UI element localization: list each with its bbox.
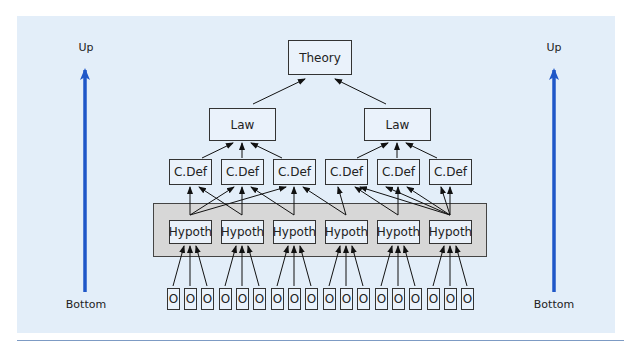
observation-node: O: [236, 288, 249, 310]
observation-node: O: [288, 288, 301, 310]
bottom-rule: [17, 340, 624, 341]
observation-node: O: [409, 288, 422, 310]
observation-node: O: [219, 288, 232, 310]
cdef-node-6: C.Def: [429, 159, 472, 185]
observation-node: O: [357, 288, 370, 310]
cdef-node-5: C.Def: [377, 159, 420, 185]
observation-node: O: [167, 288, 180, 310]
observation-node: O: [305, 288, 318, 310]
observation-node: O: [201, 288, 214, 310]
law-node-2: Law: [364, 108, 431, 141]
left-bottom-label: Bottom: [66, 298, 106, 311]
observation-node: O: [444, 288, 457, 310]
observation-node: O: [375, 288, 388, 310]
observation-node: O: [340, 288, 353, 310]
observation-node: O: [253, 288, 266, 310]
observation-node: O: [323, 288, 336, 310]
cdef-node-3: C.Def: [273, 159, 316, 185]
hypothesis-node-4: Hypoth: [325, 220, 368, 244]
observation-node: O: [427, 288, 440, 310]
theory-node: Theory: [288, 40, 352, 75]
cdef-node-4: C.Def: [325, 159, 368, 185]
right-bottom-label: Bottom: [534, 298, 574, 311]
hypothesis-node-3: Hypoth: [273, 220, 316, 244]
hypothesis-node-6: Hypoth: [429, 220, 472, 244]
cdef-node-2: C.Def: [221, 159, 264, 185]
left-up-label: Up: [78, 41, 93, 54]
law-node-1: Law: [209, 108, 276, 141]
right-up-label: Up: [546, 41, 561, 54]
observation-node: O: [184, 288, 197, 310]
hypothesis-node-2: Hypoth: [221, 220, 264, 244]
cdef-node-1: C.Def: [169, 159, 212, 185]
observation-node: O: [392, 288, 405, 310]
hypothesis-node-5: Hypoth: [377, 220, 420, 244]
hypothesis-node-1: Hypoth: [169, 220, 212, 244]
observation-node: O: [461, 288, 474, 310]
observation-node: O: [271, 288, 284, 310]
